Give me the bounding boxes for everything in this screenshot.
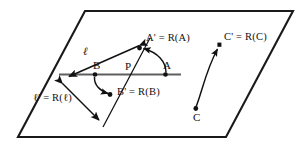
label-line-ell: ℓ	[83, 46, 88, 57]
label-a-image: A' = R(A)	[146, 33, 190, 44]
figure-root: ℓ B P A A' = R(A) B' = R(B) C' = R(C) C …	[0, 0, 305, 148]
diagram-canvas	[0, 0, 305, 148]
label-b-image: B' = R(B)	[117, 87, 160, 98]
label-point-p: P	[125, 61, 131, 72]
point-a	[163, 72, 168, 77]
point-b	[93, 72, 98, 77]
point-c-prime	[217, 43, 221, 47]
label-c-image: C' = R(C)	[224, 32, 267, 43]
label-point-a: A	[163, 60, 171, 71]
arc-b-to-bprime	[94, 77, 108, 94]
label-point-c: C	[193, 112, 200, 123]
arc-c-to-cprime	[196, 49, 218, 107]
label-line-ell-image: ℓ' = R(ℓ)	[33, 93, 72, 104]
point-a-prime	[137, 46, 142, 51]
point-b-prime	[108, 92, 113, 97]
label-point-b: B	[93, 60, 100, 71]
